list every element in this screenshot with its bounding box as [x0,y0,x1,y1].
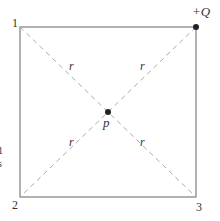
corner-label-3: 3 [196,201,202,213]
corner-label-2: 2 [12,199,18,211]
clipped-text-2: s [0,158,2,170]
charge-label: +Q [192,6,210,18]
clipped-text-1: 1 [0,145,3,157]
center-label-p: p [103,117,110,129]
distance-label-r-top-right: r [140,60,145,72]
distance-label-r-bottom-left: r [69,136,74,148]
corner-label-1: 1 [12,17,18,29]
square-charge-diagram [0,0,220,221]
distance-label-r-bottom-right: r [140,136,145,148]
charge-dot [193,24,199,30]
distance-label-r-top-left: r [69,60,74,72]
